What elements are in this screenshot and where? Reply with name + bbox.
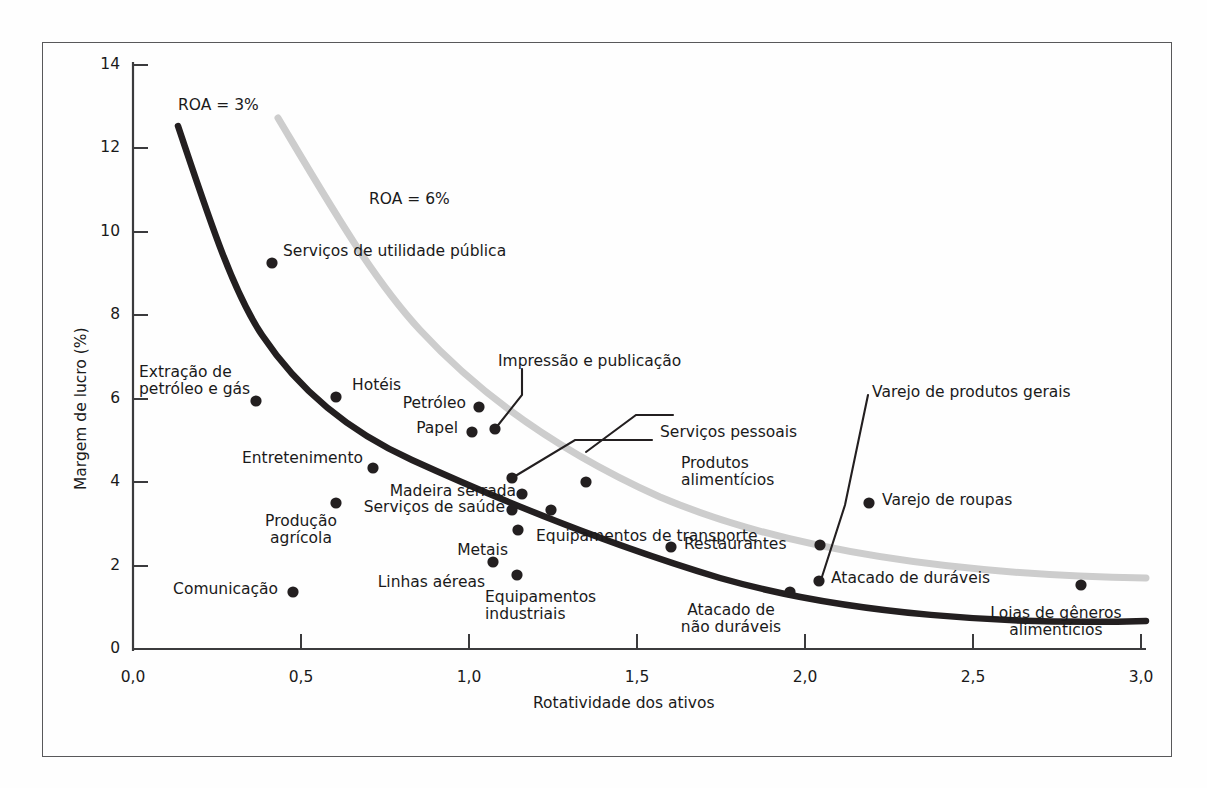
label-equip-ind-line2: industriais [485, 606, 596, 623]
y-tick-10: 10 [84, 222, 120, 240]
x-tick-05: 0,5 [271, 668, 331, 686]
label-lojas-generos-alimenticios: Lojas de gêneros alimentícios [966, 605, 1146, 640]
point-equipamentos-industriais [511, 569, 522, 580]
label-lojas-line2: alimentícios [966, 622, 1146, 639]
y-tick-0: 0 [84, 639, 120, 657]
x-axis-title: Rotatividade dos ativos [533, 694, 715, 712]
y-tick-12: 12 [84, 138, 120, 156]
y-tick-2: 2 [84, 556, 120, 574]
point-atacado-duraveis [813, 575, 824, 586]
label-equip-ind-line1: Equipamentos [485, 589, 596, 606]
point-servicos-utilidade-publica [266, 257, 277, 268]
label-hoteis: Hotéis [352, 377, 401, 395]
x-tick-20: 2,0 [775, 668, 835, 686]
x-tick-0: 0,0 [103, 668, 163, 686]
label-servicos-saude: Serviços de saúde [345, 499, 505, 517]
point-varejo-produtos-gerais [814, 539, 825, 550]
point-varejo-roupas [863, 497, 874, 508]
point-extracao-petroleo-gas [250, 395, 261, 406]
label-servicos-utilidade-publica: Serviços de utilidade pública [283, 243, 506, 261]
x-tick-10: 1,0 [439, 668, 499, 686]
curve-label-roa6: ROA = 6% [369, 190, 450, 208]
chart-page: Margem de lucro (%) 14 12 10 8 6 4 2 0 0… [0, 0, 1207, 788]
y-ticks [133, 65, 148, 566]
label-atacado-nao-duraveis: Atacado de não duráveis [663, 602, 799, 637]
y-tick-4: 4 [84, 472, 120, 490]
x-tick-30: 3,0 [1111, 668, 1171, 686]
y-axis-title: Margem de lucro (%) [72, 327, 90, 490]
label-producao-agricola: Produção agrícola [239, 513, 363, 548]
label-produtos-alimenticios: Produtos alimentícios [681, 455, 774, 490]
point-petroleo [473, 401, 484, 412]
label-comunicacao: Comunicação [138, 581, 278, 599]
label-atacado-duraveis: Atacado de duráveis [831, 570, 990, 588]
y-tick-14: 14 [84, 55, 120, 73]
point-producao-agricola [330, 497, 341, 508]
label-lojas-line1: Lojas de gêneros [966, 605, 1146, 622]
label-atac-nd-line1: Atacado de [663, 602, 799, 619]
point-impressao-publicacao [489, 423, 500, 434]
label-restaurantes: Restaurantes [684, 536, 786, 554]
label-varejo-produtos-gerais: Varejo de produtos gerais [872, 384, 1071, 402]
point-produtos-alimenticios [580, 476, 591, 487]
point-equipamentos-transporte [545, 504, 556, 515]
x-tick-25: 2,5 [943, 668, 1003, 686]
point-comunicacao [287, 586, 298, 597]
label-prod-alim-line2: alimentícios [681, 472, 774, 489]
point-lojas-generos-alimenticios [1075, 579, 1086, 590]
label-varejo-roupas: Varejo de roupas [882, 492, 1012, 510]
label-extracao-line2: petróleo e gás [139, 381, 250, 398]
label-impressao-publicacao: Impressão e publicação [498, 353, 681, 371]
label-papel: Papel [370, 420, 458, 438]
point-metais [512, 524, 523, 535]
curve-label-roa3: ROA = 3% [178, 96, 259, 114]
point-madeira-serrada [516, 488, 527, 499]
label-petroleo: Petróleo [348, 395, 466, 413]
label-extracao-line1: Extração de [139, 364, 250, 381]
label-entretenimento: Entretenimento [203, 450, 363, 468]
point-servicos-saude [506, 504, 517, 515]
label-producao-line2: agrícola [239, 530, 363, 547]
y-tick-8: 8 [84, 305, 120, 323]
label-prod-alim-line1: Produtos [681, 455, 774, 472]
x-tick-15: 1,5 [607, 668, 667, 686]
point-entretenimento [367, 462, 378, 473]
label-extracao-petroleo-gas: Extração de petróleo e gás [139, 364, 250, 399]
point-papel [466, 426, 477, 437]
label-servicos-pessoais: Serviços pessoais [660, 424, 797, 442]
label-equipamentos-industriais: Equipamentos industriais [485, 589, 596, 624]
label-atac-nd-line2: não duráveis [663, 619, 799, 636]
y-tick-6: 6 [84, 389, 120, 407]
label-linhas-aereas: Linhas aéreas [355, 574, 485, 592]
label-metais: Metais [418, 542, 508, 560]
point-hoteis [330, 391, 341, 402]
point-atacado-nao-duraveis [784, 586, 795, 597]
